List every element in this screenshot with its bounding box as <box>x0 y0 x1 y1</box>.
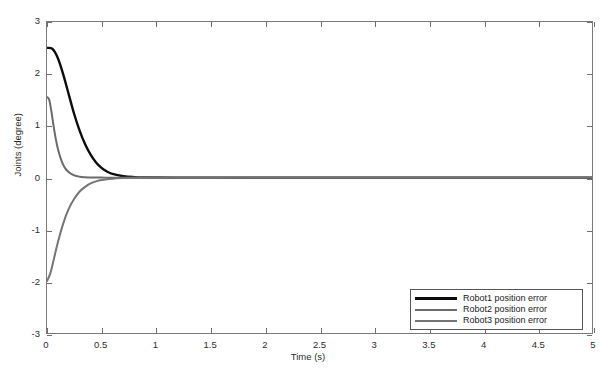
y-tick-label: 3 <box>12 16 40 26</box>
x-tick-label: 1.5 <box>203 340 216 350</box>
series-line-3 <box>47 177 592 281</box>
legend-swatch-robot2 <box>415 309 457 311</box>
plot-area <box>46 21 593 334</box>
legend-item-robot1: Robot1 position error <box>415 293 578 304</box>
x-tick-mark <box>594 22 595 27</box>
legend-label-robot2: Robot2 position error <box>463 304 547 315</box>
y-tick-label: 0 <box>12 173 40 183</box>
x-tick-label: 2 <box>262 340 267 350</box>
x-tick-label: 3.5 <box>422 340 435 350</box>
x-tick-label: 2.5 <box>313 340 326 350</box>
x-axis-title: Time (s) <box>0 352 616 362</box>
y-tick-label: 1 <box>12 121 40 131</box>
y-tick-label: -1 <box>12 225 40 235</box>
legend-swatch-robot3 <box>415 320 457 322</box>
legend-label-robot1: Robot1 position error <box>463 293 547 304</box>
series-line-1 <box>47 48 592 178</box>
legend-swatch-robot1 <box>415 297 457 300</box>
y-tick-mark <box>47 335 52 336</box>
y-tick-label: 2 <box>12 68 40 78</box>
y-tick-mark <box>587 335 592 336</box>
x-tick-mark <box>594 328 595 333</box>
x-tick-label: 0 <box>43 340 48 350</box>
x-tick-label: 4.5 <box>532 340 545 350</box>
y-tick-label: -2 <box>12 277 40 287</box>
series-lines <box>47 22 592 333</box>
series-line-2 <box>47 97 592 178</box>
x-tick-label: 1 <box>153 340 158 350</box>
x-tick-label: 0.5 <box>94 340 107 350</box>
legend-item-robot3: Robot3 position error <box>415 315 578 326</box>
x-tick-label: 5 <box>590 340 595 350</box>
legend-item-robot2: Robot2 position error <box>415 304 578 315</box>
figure-canvas: Joints (degree) Time (s) 00.511.522.533.… <box>0 0 616 373</box>
legend-box: Robot1 position error Robot2 position er… <box>410 289 583 330</box>
y-tick-label: -3 <box>12 329 40 339</box>
x-tick-label: 3 <box>372 340 377 350</box>
legend-label-robot3: Robot3 position error <box>463 315 547 326</box>
x-tick-label: 4 <box>481 340 486 350</box>
